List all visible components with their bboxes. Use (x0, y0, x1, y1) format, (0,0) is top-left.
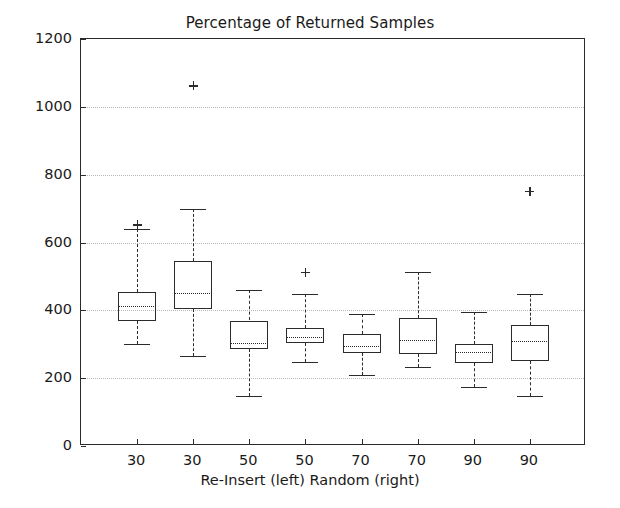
x-tick-mark (474, 439, 475, 444)
boxplot-box (81, 39, 584, 444)
x-tick-label: 90 (443, 452, 503, 468)
upper-cap (517, 294, 543, 295)
iqr-box (511, 325, 549, 361)
y-tick-label: 600 (10, 234, 72, 250)
chart-title: Percentage of Returned Samples (0, 14, 620, 32)
x-tick-mark (305, 439, 306, 444)
lower-cap (517, 396, 543, 397)
x-axis-label: Re-Insert (left) Random (right) (0, 472, 620, 488)
x-tick-label: 30 (106, 452, 166, 468)
x-tick-mark (362, 439, 363, 444)
plot-area (80, 38, 585, 445)
y-tick-label: 800 (10, 166, 72, 182)
boxplot-figure: Percentage of Returned Samples Time in s… (0, 0, 620, 508)
y-tick-label: 1000 (10, 98, 72, 114)
x-tick-mark (418, 439, 419, 444)
x-tick-label: 70 (387, 452, 447, 468)
y-tick-label: 1200 (10, 30, 72, 46)
y-tick-label: 400 (10, 301, 72, 317)
x-tick-label: 50 (218, 452, 278, 468)
lower-whisker (530, 361, 531, 396)
x-tick-label: 90 (499, 452, 559, 468)
outlier-marker (525, 187, 534, 196)
y-tick-mark (81, 446, 86, 447)
x-tick-label: 70 (331, 452, 391, 468)
x-tick-mark (193, 439, 194, 444)
y-tick-label: 200 (10, 369, 72, 385)
median-line (511, 341, 549, 342)
upper-whisker (530, 294, 531, 325)
x-tick-mark (137, 439, 138, 444)
x-tick-label: 50 (274, 452, 334, 468)
y-tick-label: 0 (10, 437, 72, 453)
x-tick-mark (530, 439, 531, 444)
x-tick-label: 30 (162, 452, 222, 468)
x-tick-mark (249, 439, 250, 444)
